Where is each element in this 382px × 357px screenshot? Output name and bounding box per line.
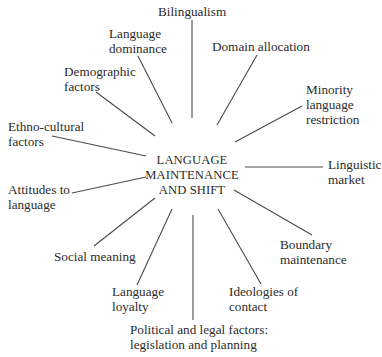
connector-attitudes-to-language bbox=[72, 177, 146, 193]
factor-language-loyalty: Language loyalty bbox=[112, 284, 164, 314]
factor-demographic-factors: Demographic factors bbox=[64, 64, 136, 94]
factor-label: Political and legal factors: bbox=[130, 322, 268, 337]
factor-label: Ethno-cultural bbox=[8, 119, 84, 134]
factor-label: legislation and planning bbox=[130, 337, 268, 352]
central-concept-line-3: AND SHIFT bbox=[142, 183, 242, 198]
connector-demographic-factors bbox=[96, 92, 155, 136]
factor-domain-allocation: Domain allocation bbox=[212, 39, 310, 54]
connector-language-loyalty bbox=[137, 209, 172, 285]
factor-ethno-cultural-factors: Ethno-cultural factors bbox=[8, 119, 84, 149]
central-concept-line-2: MAINTENANCE bbox=[142, 168, 242, 183]
central-concept: LANGUAGE MAINTENANCE AND SHIFT bbox=[142, 153, 242, 198]
connector-minority-language-restriction bbox=[235, 106, 302, 142]
factor-ideologies-of-contact: Ideologies of contact bbox=[229, 284, 298, 314]
factor-label: restriction bbox=[306, 112, 359, 127]
connector-ideologies-of-contact bbox=[218, 209, 261, 284]
factor-label: language bbox=[8, 197, 70, 212]
factor-label: loyalty bbox=[112, 299, 164, 314]
connector-language-dominance bbox=[138, 56, 172, 123]
factor-label: dominance bbox=[109, 41, 167, 56]
factor-label: Linguistic bbox=[328, 157, 381, 172]
factor-attitudes-to-language: Attitudes to language bbox=[8, 182, 70, 212]
factor-label: Minority bbox=[306, 82, 359, 97]
connector-domain-allocation bbox=[217, 55, 257, 125]
factor-label: Boundary bbox=[280, 237, 347, 252]
factor-label: language bbox=[306, 97, 359, 112]
factor-label: Language bbox=[112, 284, 164, 299]
factor-label: Demographic bbox=[64, 64, 136, 79]
factor-label: market bbox=[328, 172, 381, 187]
factor-social-meaning: Social meaning bbox=[54, 249, 136, 264]
factor-label: factors bbox=[64, 79, 136, 94]
factor-boundary-maintenance: Boundary maintenance bbox=[280, 237, 347, 267]
factor-label: Social meaning bbox=[54, 249, 136, 264]
factor-bilingualism: Bilingualism bbox=[158, 4, 226, 19]
factor-minority-language-restriction: Minority language restriction bbox=[306, 82, 359, 127]
factor-label: Bilingualism bbox=[158, 4, 226, 19]
language-maintenance-diagram: LANGUAGE MAINTENANCE AND SHIFT Bilingual… bbox=[0, 0, 382, 357]
factor-label: Attitudes to bbox=[8, 182, 70, 197]
factor-label: factors bbox=[8, 134, 84, 149]
factor-linguistic-market: Linguistic market bbox=[328, 157, 381, 187]
factor-label: Domain allocation bbox=[212, 39, 310, 54]
factor-language-dominance: Language dominance bbox=[109, 26, 167, 56]
connector-social-meaning bbox=[94, 198, 155, 246]
central-concept-line-1: LANGUAGE bbox=[142, 153, 242, 168]
factor-label: Language bbox=[109, 26, 167, 41]
factor-label: contact bbox=[229, 299, 298, 314]
factor-label: maintenance bbox=[280, 252, 347, 267]
factor-political-legal-factors: Political and legal factors: legislation… bbox=[130, 322, 268, 352]
factor-label: Ideologies of bbox=[229, 284, 298, 299]
connector-boundary-maintenance bbox=[234, 190, 312, 235]
